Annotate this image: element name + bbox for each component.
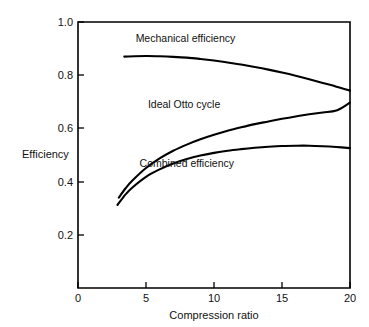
chart-canvas: 1.0 0.8 0.6 0.4 0.2 0 5 10 15 20 Efficie… (0, 0, 369, 327)
curve-mechanical-efficiency (124, 56, 350, 91)
y-tick-label-0_4: 0.4 (58, 176, 73, 188)
x-tick-label-5: 5 (143, 292, 149, 304)
y-axis-tick-labels: 1.0 0.8 0.6 0.4 0.2 (58, 16, 73, 241)
label-mechanical-efficiency: Mechanical efficiency (136, 32, 236, 44)
x-axis-tick-labels: 0 5 10 15 20 (75, 292, 356, 304)
x-axis-title: Compression ratio (169, 309, 258, 321)
x-tick-label-15: 15 (276, 292, 288, 304)
data-series-group (117, 56, 350, 205)
x-axis-ticks (78, 282, 350, 288)
x-tick-label-20: 20 (344, 292, 356, 304)
x-tick-label-0: 0 (75, 292, 81, 304)
y-tick-label-0_6: 0.6 (58, 122, 73, 134)
curve-annotations: Mechanical efficiency Ideal Otto cycle C… (136, 32, 236, 169)
plot-border (78, 22, 350, 288)
y-tick-label-0_2: 0.2 (58, 229, 73, 241)
curve-combined-efficiency (117, 146, 350, 205)
y-axis-ticks (78, 22, 84, 235)
label-combined-efficiency: Combined efficiency (140, 157, 235, 169)
label-ideal-otto-cycle: Ideal Otto cycle (148, 98, 221, 110)
efficiency-vs-compression-ratio-chart: 1.0 0.8 0.6 0.4 0.2 0 5 10 15 20 Efficie… (0, 0, 369, 327)
y-tick-label-1_0: 1.0 (58, 16, 73, 28)
y-tick-label-0_8: 0.8 (58, 69, 73, 81)
y-axis-title: Efficiency (22, 148, 69, 160)
x-tick-label-10: 10 (208, 292, 220, 304)
plot-frame (78, 22, 350, 288)
